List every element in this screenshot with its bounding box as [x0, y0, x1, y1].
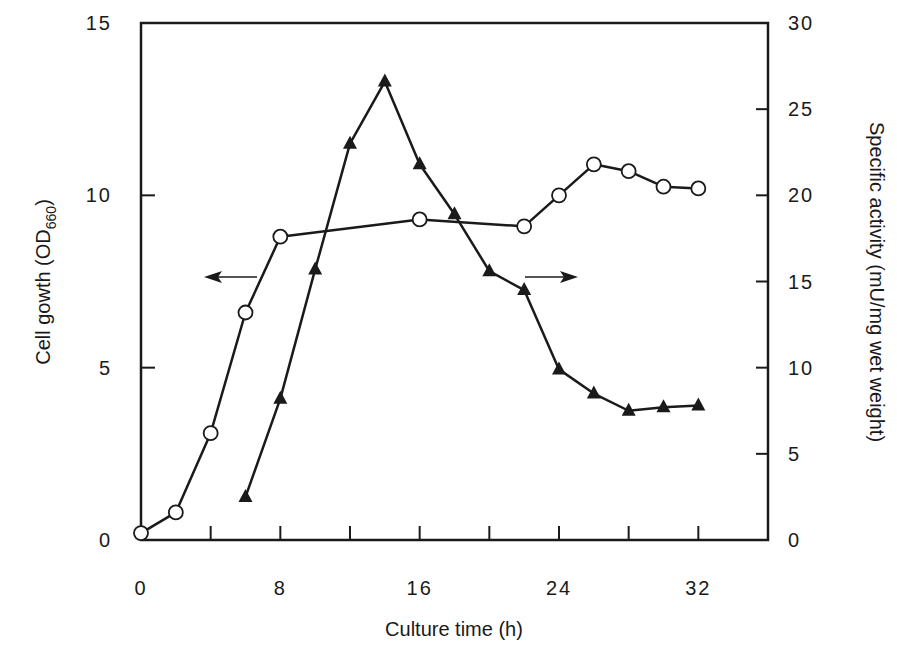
- open-circle-marker: [413, 212, 427, 226]
- filled-triangle-marker: [273, 391, 287, 404]
- left-axis-arrow: [204, 271, 257, 283]
- x-tick-label: 8: [274, 577, 287, 599]
- y2-tick-label: 15: [788, 271, 814, 293]
- filled-triangle-marker: [413, 156, 427, 169]
- open-circle-marker: [273, 230, 287, 244]
- x-tick-label: 24: [546, 577, 572, 599]
- right-y-axis-title: Specific activity (mU/mg wet weight): [866, 122, 888, 442]
- filled-triangle-marker: [552, 361, 566, 374]
- x-axis-tick-labels: 08162432: [134, 577, 711, 599]
- x-axis-ticks: [211, 526, 699, 540]
- open-circle-marker: [134, 526, 148, 540]
- x-tick-label: 0: [134, 577, 147, 599]
- filled-triangle-marker: [691, 398, 705, 411]
- open-circle-marker: [517, 219, 531, 233]
- series-lines: [141, 82, 698, 534]
- open-circle-marker: [622, 164, 636, 178]
- filled-triangle-marker: [587, 386, 601, 399]
- y-tick-label: 5: [99, 357, 112, 379]
- filled-triangle-marker: [657, 399, 671, 412]
- y2-tick-label: 0: [788, 529, 801, 551]
- left-y-axis-title-main: Cell gowth (OD: [32, 229, 54, 365]
- dual-axis-line-chart: 08162432 051015 051015202530 Culture tim…: [0, 0, 897, 661]
- left-y-axis-title-subscript: 660: [43, 206, 59, 230]
- left-y-axis-ticks: [141, 195, 155, 367]
- x-axis-title: Culture time (h): [385, 618, 523, 640]
- filled-triangle-marker: [239, 489, 253, 502]
- y2-tick-label: 25: [788, 98, 814, 120]
- plot-frame: [141, 23, 768, 540]
- y-tick-label: 10: [86, 184, 112, 206]
- x-tick-label: 32: [685, 577, 711, 599]
- series-markers: [134, 74, 705, 541]
- right-y-axis-tick-labels: 051015202530: [788, 12, 814, 551]
- left-y-axis-title-close: ): [32, 199, 54, 206]
- filled-triangle-marker: [308, 261, 322, 274]
- left-y-axis-title: Cell gowth (OD660): [32, 199, 59, 365]
- open-circle-marker: [239, 306, 253, 320]
- filled-triangle-marker: [343, 136, 357, 149]
- right-y-axis-ticks: [756, 109, 768, 454]
- series-line: [246, 82, 699, 497]
- y-tick-label: 0: [99, 529, 112, 551]
- open-circle-marker: [204, 426, 218, 440]
- open-circle-marker: [587, 157, 601, 171]
- open-circle-marker: [657, 180, 671, 194]
- open-circle-marker: [552, 188, 566, 202]
- y2-tick-label: 5: [788, 443, 801, 465]
- y2-tick-label: 20: [788, 184, 814, 206]
- left-y-axis-tick-labels: 051015: [86, 12, 112, 551]
- y2-tick-label: 30: [788, 12, 814, 34]
- right-axis-arrow: [525, 271, 578, 283]
- y2-tick-label: 10: [788, 357, 814, 379]
- y-tick-label: 15: [86, 12, 112, 34]
- open-circle-marker: [691, 181, 705, 195]
- open-circle-marker: [169, 505, 183, 519]
- filled-triangle-marker: [378, 74, 392, 87]
- x-tick-label: 16: [407, 577, 433, 599]
